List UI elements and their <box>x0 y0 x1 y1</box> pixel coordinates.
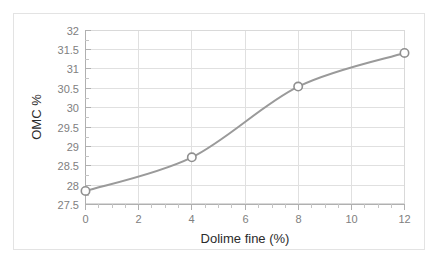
data-point-marker <box>294 82 302 90</box>
x-tick-label: 6 <box>242 213 248 225</box>
y-tick-label: 31 <box>67 63 79 75</box>
y-tick-label: 30.5 <box>58 83 79 95</box>
y-axis-title: OMC % <box>29 94 44 140</box>
x-axis-title: Dolime fine (%) <box>201 231 290 246</box>
x-tick-label: 12 <box>398 213 410 225</box>
y-tick-label: 27.5 <box>58 199 79 211</box>
data-point-marker <box>81 187 89 195</box>
y-tick-label: 31.5 <box>58 44 79 56</box>
x-tick-label: 4 <box>188 213 194 225</box>
x-axis-tick-labels: 0 2 4 6 8 10 12 <box>82 213 410 225</box>
y-axis-tick-labels: 32 31.5 31 30.5 30 29.5 29 28.5 28 27.5 <box>58 25 79 211</box>
x-tick-label: 10 <box>345 213 357 225</box>
line-chart: 32 31.5 31 30.5 30 29.5 29 28.5 28 27.5 … <box>0 0 439 263</box>
x-tick-label: 0 <box>82 213 88 225</box>
data-point-marker <box>400 49 408 57</box>
data-point-marker <box>188 153 196 161</box>
chart-figure: 32 31.5 31 30.5 30 29.5 29 28.5 28 27.5 … <box>0 0 439 263</box>
y-tick-label: 29.5 <box>58 122 79 134</box>
y-tick-label: 29 <box>67 141 79 153</box>
y-tick-label: 28.5 <box>58 160 79 172</box>
y-tick-label: 28 <box>67 180 79 192</box>
y-tick-label: 30 <box>67 102 79 114</box>
y-tick-label: 32 <box>67 25 79 37</box>
x-tick-label: 2 <box>135 213 141 225</box>
x-tick-label: 8 <box>295 213 301 225</box>
